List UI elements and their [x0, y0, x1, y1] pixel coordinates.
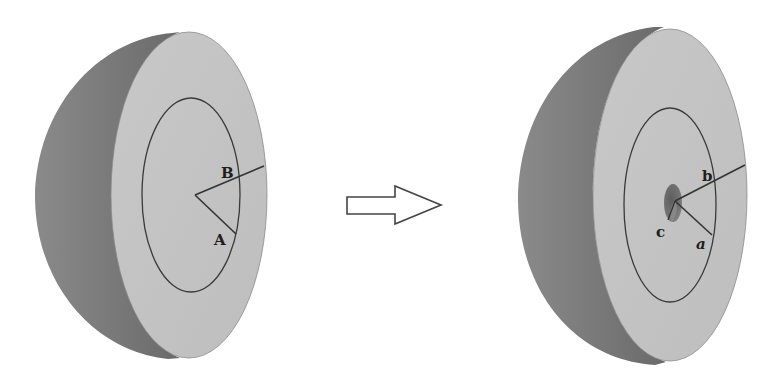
hollow-hemisphere: b a c — [518, 27, 747, 365]
transform-arrow-icon — [347, 186, 441, 224]
label-c: c — [656, 223, 665, 241]
label-b: b — [702, 167, 713, 185]
solid-hemisphere: B A — [35, 32, 267, 359]
hemisphere-face — [111, 32, 267, 358]
label-B: B — [221, 164, 234, 182]
diagram-canvas: B A b a c — [0, 0, 777, 392]
label-A: A — [213, 231, 226, 249]
label-a: a — [696, 235, 706, 253]
